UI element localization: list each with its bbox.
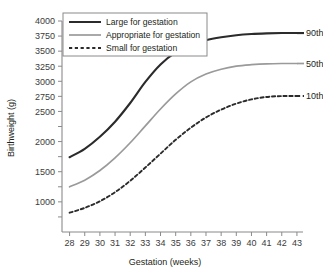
- legend-label-1: Appropriate for gestation: [106, 30, 200, 40]
- x-tick-label: 40: [246, 238, 256, 248]
- x-tick-label: 36: [186, 238, 196, 248]
- series-line-1: [70, 63, 297, 186]
- x-tick-label: 30: [95, 238, 105, 248]
- legend-label-2: Small for gestation: [106, 43, 177, 53]
- y-tick-label: 4000: [35, 16, 55, 26]
- y-tick-label: 3750: [35, 31, 55, 41]
- x-tick-label: 31: [110, 238, 120, 248]
- x-axis-tick-labels: 28293031323334353637383940414243: [65, 238, 302, 248]
- x-tick-label: 41: [262, 238, 272, 248]
- chart-canvas: 4000375035003250300027502500200015001000…: [0, 0, 323, 271]
- x-axis-group: 28293031323334353637383940414243 Gestati…: [62, 232, 303, 267]
- data-series-group: [70, 33, 304, 213]
- x-axis-title: Gestation (weeks): [129, 257, 202, 267]
- y-axis-tick-labels: 4000375035003250300027502500200015001000: [35, 16, 55, 207]
- percentile-label-50th: 50th: [306, 59, 323, 69]
- series-line-2: [70, 96, 297, 213]
- y-tick-label: 2500: [35, 107, 55, 117]
- percentile-label-90th: 90th: [306, 28, 323, 38]
- y-tick-label: 2000: [35, 137, 55, 147]
- x-tick-label: 34: [156, 238, 166, 248]
- birthweight-gestation-chart: 4000375035003250300027502500200015001000…: [0, 0, 323, 271]
- x-axis-tick-marks: [70, 232, 297, 236]
- legend-label-0: Large for gestation: [106, 17, 178, 27]
- x-tick-label: 29: [80, 238, 90, 248]
- y-tick-label: 3000: [35, 77, 55, 87]
- y-tick-label: 1500: [35, 167, 55, 177]
- x-tick-label: 42: [277, 238, 287, 248]
- y-axis-group: 4000375035003250300027502500200015001000…: [6, 16, 62, 232]
- x-tick-label: 28: [65, 238, 75, 248]
- y-axis-tick-marks: [58, 21, 62, 217]
- y-tick-label: 3250: [35, 62, 55, 72]
- y-tick-label: 3500: [35, 46, 55, 56]
- y-tick-label: 2750: [35, 92, 55, 102]
- percentile-label-10th: 10th: [306, 91, 323, 101]
- x-tick-label: 35: [171, 238, 181, 248]
- x-tick-label: 33: [140, 238, 150, 248]
- series-end-labels: 90th50th10th: [306, 28, 323, 101]
- x-tick-label: 38: [216, 238, 226, 248]
- legend: Large for gestationAppropriate for gesta…: [63, 13, 207, 56]
- y-tick-label: 1000: [35, 197, 55, 207]
- x-tick-label: 32: [125, 238, 135, 248]
- y-axis-title: Birthweight (g): [6, 99, 16, 157]
- x-tick-label: 43: [292, 238, 302, 248]
- x-tick-label: 39: [231, 238, 241, 248]
- x-tick-label: 37: [201, 238, 211, 248]
